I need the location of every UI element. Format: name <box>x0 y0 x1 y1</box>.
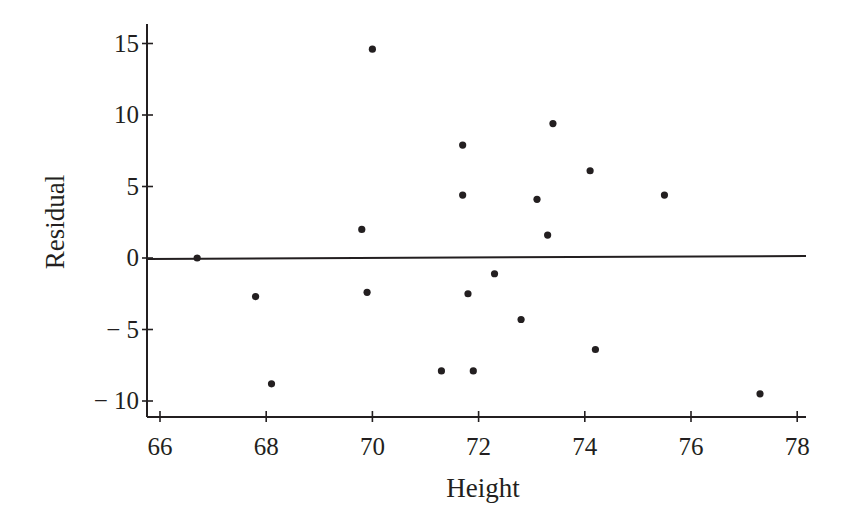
data-point <box>369 46 376 53</box>
data-points <box>194 46 764 398</box>
data-point <box>464 290 471 297</box>
zero-line <box>147 256 806 259</box>
zero-reference-line <box>147 256 806 259</box>
data-point <box>459 141 466 148</box>
y-tick-label: 5 <box>127 173 140 200</box>
y-tick-label: 10 <box>114 101 139 128</box>
data-point <box>470 367 477 374</box>
data-point <box>661 191 668 198</box>
data-point <box>438 367 445 374</box>
data-point <box>268 380 275 387</box>
residual-scatter-plot: 151050− 5− 10 66687072747678 Residual He… <box>0 0 847 524</box>
x-axis-label: Height <box>446 473 520 503</box>
data-point <box>358 226 365 233</box>
y-tick-label: 15 <box>114 30 139 57</box>
data-point <box>363 289 370 296</box>
data-point <box>549 120 556 127</box>
data-point <box>756 390 763 397</box>
x-tick-label: 66 <box>148 433 173 460</box>
y-tick-label: − 10 <box>94 387 139 414</box>
data-point <box>517 316 524 323</box>
data-point <box>252 293 259 300</box>
x-tick-label: 70 <box>360 433 385 460</box>
data-point <box>194 254 201 261</box>
y-axis: 151050− 5− 10 <box>94 24 153 417</box>
x-tick-label: 72 <box>466 433 491 460</box>
y-tick-label: 0 <box>127 244 140 271</box>
x-tick-label: 78 <box>785 433 810 460</box>
y-axis-label: Residual <box>40 175 70 270</box>
data-point <box>544 232 551 239</box>
y-tick-label: − 5 <box>106 316 139 343</box>
x-tick-label: 68 <box>254 433 279 460</box>
x-tick-label: 76 <box>679 433 704 460</box>
data-point <box>592 346 599 353</box>
data-point <box>491 270 498 277</box>
data-point <box>533 196 540 203</box>
data-point <box>459 191 466 198</box>
x-axis: 66687072747678 <box>147 411 810 460</box>
data-point <box>587 167 594 174</box>
x-tick-label: 74 <box>572 433 598 460</box>
